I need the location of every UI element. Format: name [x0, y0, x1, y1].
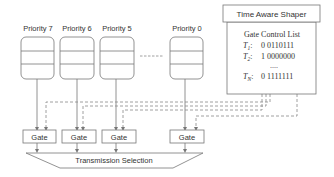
- svg-text:0 0110111: 0 0110111: [261, 41, 294, 50]
- svg-text:Gate: Gate: [111, 133, 127, 142]
- queue-label-priority-5: Priority 5: [102, 24, 132, 33]
- gcl-ellipsis: ....: [270, 61, 278, 70]
- queue-label-priority-7: Priority 7: [23, 24, 53, 33]
- queue-priority-5: [100, 37, 134, 79]
- time-aware-shaper: Time Aware Shaper Gate Control List T1: …: [223, 5, 320, 94]
- gate-2: Gate: [62, 130, 96, 143]
- svg-text:1 0000000: 1 0000000: [261, 52, 295, 61]
- svg-text:Transmission Selection: Transmission Selection: [75, 156, 152, 165]
- queue-label-priority-6: Priority 6: [62, 24, 92, 33]
- svg-text:Gate: Gate: [179, 133, 195, 142]
- svg-text:Gate: Gate: [31, 133, 47, 142]
- gate-to-selection-arrows: [37, 143, 185, 151]
- gcl-row-n: TN: 0 1111111: [243, 72, 293, 82]
- svg-text:0 1111111: 0 1111111: [261, 72, 293, 81]
- gcl-row-1: T1: 0 0110111: [243, 41, 294, 51]
- queue-priority-6: [60, 37, 94, 79]
- queue-priority-0: [170, 37, 203, 79]
- tas-title: Time Aware Shaper: [237, 10, 307, 19]
- gcl-title: Gate Control List: [244, 30, 301, 39]
- gcl-row-2: T2: 1 0000000: [243, 52, 295, 62]
- gate-3: Gate: [102, 130, 136, 143]
- queue-label-priority-0: Priority 0: [172, 24, 202, 33]
- gate-control-dashed-lines: [46, 94, 297, 129]
- gate-1: Gate: [23, 130, 56, 143]
- transmission-selection: Transmission Selection: [26, 153, 203, 168]
- svg-text:Gate: Gate: [71, 133, 87, 142]
- queue-priority-7: [21, 37, 54, 79]
- gate-4: Gate: [170, 130, 204, 143]
- tas-diagram: Priority 7 Priority 6 Priority 5 Priorit…: [0, 0, 334, 177]
- queue-to-gate-arrows: [37, 79, 185, 129]
